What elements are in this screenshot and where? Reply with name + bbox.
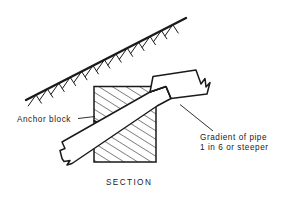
drawing-canvas: Anchor block Gradient of pipe 1 in 6 or … [0,0,294,199]
gradient-leader-line [180,105,213,132]
anchor-block-label: Anchor block [17,115,71,124]
gradient-label-line-1: Gradient of pipe [200,133,267,142]
gradient-label-line-2: 1 in 6 or steeper [200,143,269,152]
anchor-block-leader-line [78,117,95,119]
figure-caption: SECTION [106,178,152,187]
engineering-section-figure: Anchor block Gradient of pipe 1 in 6 or … [0,0,294,199]
